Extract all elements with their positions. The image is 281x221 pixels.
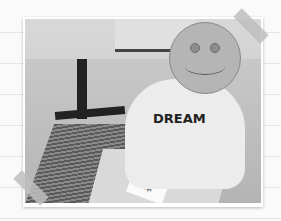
mouth-icon	[185, 58, 225, 75]
sweater-text: DREAM	[153, 111, 206, 126]
eye-icon	[210, 43, 220, 53]
smiley-face-icon	[169, 22, 241, 94]
eye-icon	[190, 43, 200, 53]
child-sweater	[125, 79, 245, 189]
